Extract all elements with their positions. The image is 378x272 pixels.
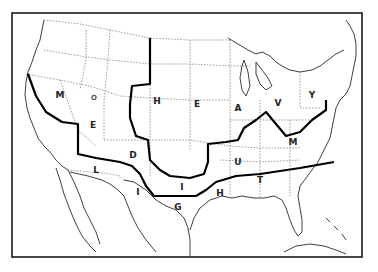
zone-letter: A (235, 103, 242, 113)
zone-letter: U (234, 157, 241, 167)
zone-letter: I (136, 187, 139, 197)
zone-letter: E (90, 120, 96, 130)
zone-boundaries (28, 38, 334, 196)
us-weight-zone-map: H E A V Y M E D I U M L I G H T O (0, 0, 378, 272)
boundary-heavy-medium (130, 38, 326, 178)
zone-letter: V (275, 98, 282, 108)
zone-letter: D (129, 150, 136, 160)
zone-labels-light: L I G H T (93, 165, 264, 212)
state-borders (26, 30, 320, 198)
zone-letter: G (174, 202, 181, 212)
zone-letter: L (93, 165, 99, 175)
zone-letter: T (257, 175, 264, 185)
map-frame (12, 13, 362, 257)
zone-letter: H (153, 96, 161, 106)
zone-letter: Y (308, 90, 316, 100)
zone-letter: E (194, 99, 200, 109)
zone-letter: I (180, 182, 183, 192)
zone-letter: M (56, 90, 65, 100)
zone-labels-heavy: H E A V Y (153, 90, 316, 113)
extra-mark: O (91, 94, 97, 102)
zone-letter: H (216, 188, 224, 198)
zone-letter: M (289, 137, 298, 147)
